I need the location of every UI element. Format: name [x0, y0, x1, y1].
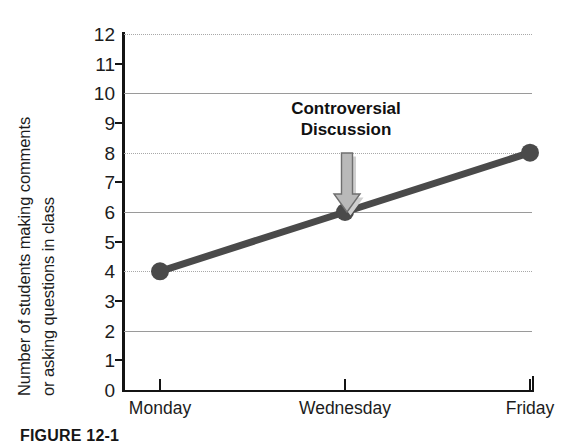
figure-container: Number of students making comments or as…: [0, 0, 581, 442]
y-tick-label-2: 2: [89, 321, 115, 340]
figure-caption: FIGURE 12-1: [20, 427, 119, 442]
x-tick-label-wednesday: Wednesday: [299, 398, 391, 419]
y-tick-label-0: 0: [89, 381, 115, 400]
y-tick-11: [115, 63, 124, 65]
annotation-line-2: Discussion: [221, 119, 471, 140]
y-tick-7: [115, 181, 124, 183]
data-point-monday: [151, 262, 169, 280]
y-tick-label-5: 5: [89, 232, 115, 251]
y-tick-label-10: 10: [89, 84, 115, 103]
x-tick-label-friday: Friday: [506, 398, 555, 419]
y-tick-label-1: 1: [89, 351, 115, 370]
y-tick-9: [115, 122, 124, 124]
y-axis-title: Number of students making comments or as…: [14, 14, 70, 396]
y-axis-title-line-2: or asking questions in class: [39, 197, 58, 396]
annotation-line-1: Controversial: [221, 98, 471, 119]
y-tick-label-8: 8: [89, 143, 115, 162]
y-tick-label-12: 12: [89, 25, 115, 44]
y-tick-label-6: 6: [89, 203, 115, 222]
y-tick-label-7: 7: [89, 173, 115, 192]
y-tick-3: [115, 300, 124, 302]
y-tick-label-9: 9: [89, 114, 115, 133]
y-axis-title-line-1: Number of students making comments: [15, 117, 34, 396]
y-tick-5: [115, 241, 124, 243]
y-tick-1: [115, 359, 124, 361]
x-tick-label-monday: Monday: [129, 398, 191, 419]
down-arrow-icon: [327, 150, 367, 220]
annotation-label: Controversial Discussion: [221, 98, 471, 141]
y-tick-label-4: 4: [89, 262, 115, 281]
y-tick-label-3: 3: [89, 292, 115, 311]
y-tick-label-11: 11: [89, 54, 115, 73]
data-point-friday: [521, 144, 539, 162]
